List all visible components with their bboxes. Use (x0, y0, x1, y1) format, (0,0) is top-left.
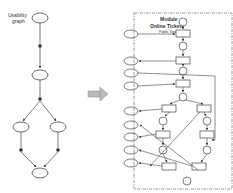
state-s0 (32, 13, 48, 23)
transform-arrow-icon (88, 87, 108, 101)
svg-text:Public View: Public View (159, 30, 178, 34)
state-s4 (32, 168, 48, 178)
transition-t2 (20, 149, 23, 152)
module-online-tickets: Module Online Tickets Public View (124, 13, 232, 189)
svg-text:Module: Module (160, 16, 178, 22)
diagram-canvas: Usability graph Module Online Tickets Pu… (0, 0, 233, 193)
transition-t1 (39, 98, 42, 101)
usability-graph: Usability graph (8, 12, 66, 178)
state-s2 (13, 122, 29, 132)
transition-t0 (39, 45, 42, 48)
state-s3 (50, 122, 66, 132)
state-s1 (32, 70, 48, 80)
svg-text:graph: graph (12, 18, 25, 24)
transition-t3 (57, 149, 60, 152)
